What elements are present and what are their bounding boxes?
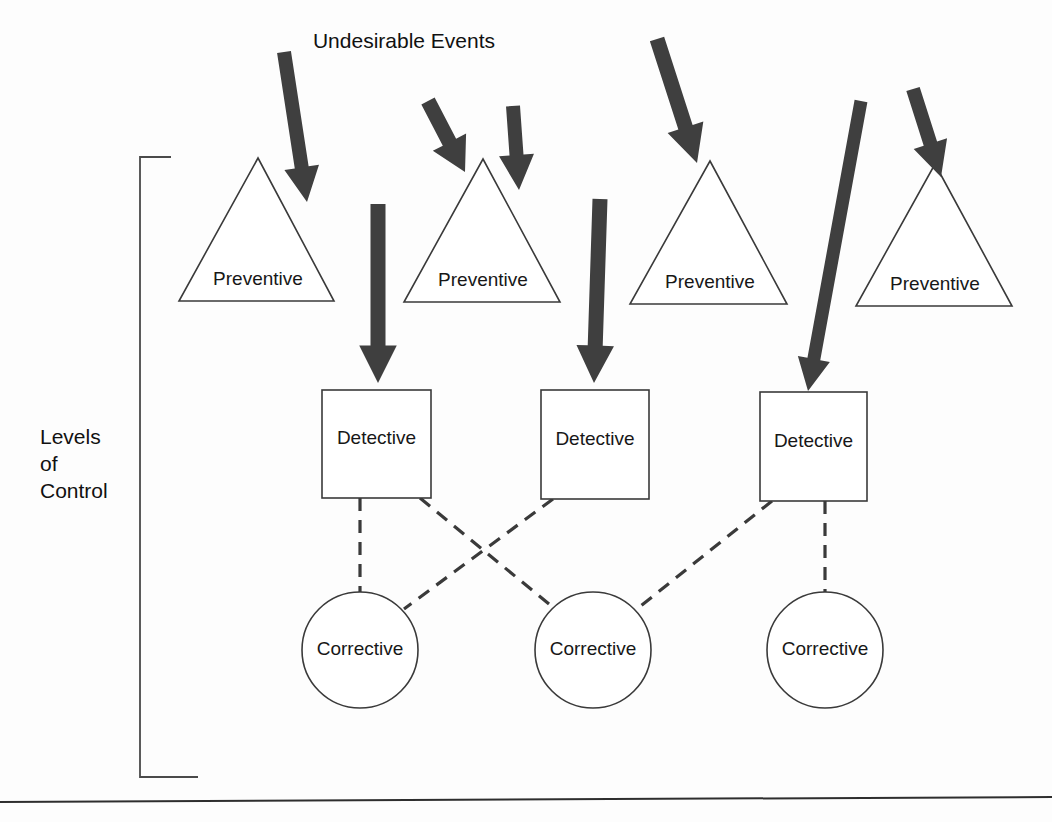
undesirable-event-arrow-layer	[277, 37, 947, 391]
page-title: Undesirable Events	[313, 29, 495, 52]
preventive-node-2[interactable]: Preventive	[404, 159, 560, 302]
bottom-divider	[0, 797, 1052, 802]
corrective-node-2[interactable]: Corrective	[535, 592, 651, 708]
preventive-label-1: Preventive	[213, 268, 303, 289]
levels-bracket	[140, 157, 198, 777]
arrow-to-preventive-4	[906, 87, 947, 177]
arrow-to-preventive-1	[277, 51, 319, 202]
corrective-level-group: CorrectiveCorrectiveCorrective	[302, 592, 883, 708]
arrow-to-preventive-2b	[499, 106, 534, 191]
corrective-label-2: Corrective	[550, 638, 637, 659]
corrective-label-3: Corrective	[782, 638, 869, 659]
detective-node-3[interactable]: Detective	[760, 392, 867, 501]
detective-level-group: DetectiveDetectiveDetective	[322, 390, 867, 501]
detective-label-3: Detective	[774, 430, 853, 451]
dashed-link-detective-2-to-corrective-1	[404, 499, 553, 609]
preventive-label-3: Preventive	[665, 271, 755, 292]
corrective-node-1[interactable]: Corrective	[302, 592, 418, 708]
arrow-to-preventive-3	[650, 37, 703, 163]
diagram-canvas: Undesirable Events Levels of Control Pre…	[0, 0, 1052, 822]
dashed-link-detective-1-to-corrective-2	[420, 498, 555, 609]
arrow-to-detective-2	[576, 199, 613, 383]
bracket-path	[140, 157, 198, 777]
dashed-link-detective-3-to-corrective-2	[637, 501, 772, 609]
preventive-label-2: Preventive	[438, 269, 528, 290]
preventive-label-4: Preventive	[890, 273, 980, 294]
controls-hierarchy-diagram: Undesirable Events Levels of Control Pre…	[0, 0, 1052, 822]
arrow-to-preventive-2	[421, 98, 466, 172]
arrow-to-detective-3	[798, 100, 868, 391]
preventive-node-4[interactable]: Preventive	[856, 164, 1012, 306]
detective-label-2: Detective	[555, 428, 634, 449]
detective-node-2[interactable]: Detective	[541, 390, 649, 499]
corrective-label-1: Corrective	[317, 638, 404, 659]
corrective-node-3[interactable]: Corrective	[767, 592, 883, 708]
detective-label-1: Detective	[337, 427, 416, 448]
caption-line-control: Control	[40, 479, 108, 502]
preventive-node-3[interactable]: Preventive	[630, 161, 787, 304]
arrow-to-detective-1	[359, 204, 397, 383]
levels-of-control-caption: Levels of Control	[40, 425, 108, 502]
caption-line-levels: Levels	[40, 425, 101, 448]
caption-line-of: of	[40, 452, 58, 475]
detective-node-1[interactable]: Detective	[322, 390, 431, 498]
